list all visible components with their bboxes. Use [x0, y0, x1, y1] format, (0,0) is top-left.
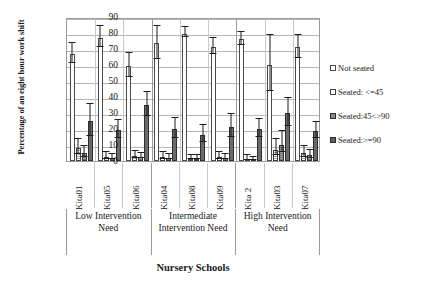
error-bar-cap — [125, 52, 132, 53]
error-bar-cap — [143, 115, 150, 116]
y-axis-tick-label: 70 — [96, 45, 118, 55]
x-axis-tick-label: Kita03 — [272, 166, 282, 210]
bar[interactable] — [200, 135, 205, 161]
error-bar — [269, 35, 270, 91]
error-bar-cap — [312, 121, 319, 122]
group-label: High Intervention Need — [235, 211, 320, 234]
error-bar-cap — [75, 138, 82, 139]
error-bar — [128, 53, 129, 77]
bar[interactable] — [144, 105, 149, 161]
legend-item[interactable]: Not seated — [330, 56, 440, 80]
bar[interactable] — [223, 158, 228, 161]
error-bar — [315, 122, 316, 138]
error-bar — [281, 131, 282, 152]
error-bar-cap — [250, 156, 257, 157]
y-axis-tick-label: 40 — [96, 93, 118, 103]
bar[interactable] — [313, 131, 318, 161]
error-bar-cap — [165, 158, 172, 159]
bar[interactable] — [154, 43, 159, 161]
error-bar-cap — [115, 119, 122, 120]
x-axis-title: Nursery Schools — [66, 262, 320, 273]
category-separator — [235, 163, 236, 208]
legend-swatch-icon — [330, 89, 336, 95]
bar[interactable] — [257, 129, 262, 161]
y-axis-tick-label: 60 — [96, 61, 118, 71]
error-bar-cap — [97, 25, 104, 26]
legend-swatch-icon — [330, 65, 336, 71]
y-axis-tick-label: 50 — [96, 77, 118, 87]
category-separator — [179, 163, 180, 208]
error-bar-cap — [228, 136, 235, 137]
group-separator — [235, 209, 236, 255]
bar[interactable] — [88, 121, 93, 161]
error-bar — [297, 35, 298, 57]
bar[interactable] — [166, 158, 171, 161]
bar[interactable] — [307, 155, 312, 161]
error-bar-cap — [181, 36, 188, 37]
legend-item[interactable]: Seated:45<>90 — [330, 104, 440, 128]
error-bar — [202, 125, 203, 143]
bar[interactable] — [285, 113, 290, 161]
legend-label: Seated:45<>90 — [338, 111, 390, 121]
bar-group — [180, 17, 208, 161]
error-bar-cap — [165, 153, 172, 154]
bar[interactable] — [194, 159, 199, 161]
error-bar-cap — [115, 137, 122, 138]
error-bar-cap — [306, 149, 313, 150]
category-separator — [207, 163, 208, 208]
legend-item[interactable]: Seated: <=45 — [330, 80, 440, 104]
legend-swatch-icon — [330, 137, 336, 143]
bar[interactable] — [126, 66, 131, 161]
error-bar-cap — [181, 26, 188, 27]
error-bar-cap — [228, 113, 235, 114]
bar[interactable] — [279, 145, 284, 161]
error-bar-cap — [284, 125, 291, 126]
error-bar-cap — [81, 156, 88, 157]
x-axis-tick-label: Kita01 — [74, 166, 84, 210]
error-bar-cap — [250, 159, 257, 160]
error-bar — [231, 114, 232, 136]
y-axis-tick-label: 80 — [96, 29, 118, 39]
error-bar-cap — [81, 145, 88, 146]
error-bar-cap — [210, 53, 217, 54]
bar[interactable] — [239, 39, 244, 161]
bar[interactable] — [82, 153, 87, 161]
bar[interactable] — [251, 159, 256, 161]
bar[interactable] — [138, 157, 143, 161]
bar[interactable] — [229, 127, 234, 161]
bar[interactable] — [182, 34, 187, 161]
bar-group — [67, 17, 95, 161]
x-axis-category-labels: Kita01Kita05Kita06Kita04Kita08Kita09Kita… — [66, 163, 320, 208]
error-bar-cap — [222, 153, 229, 154]
error-bar-cap — [87, 135, 94, 136]
bar[interactable] — [295, 47, 300, 161]
bar[interactable] — [76, 148, 81, 161]
bar-group — [265, 17, 293, 161]
x-axis-tick-label: Kita 2 — [243, 166, 253, 210]
error-bar-cap — [294, 57, 301, 58]
error-bar-cap — [238, 31, 245, 32]
error-bar-cap — [278, 130, 285, 131]
error-bar-cap — [171, 117, 178, 118]
legend-item[interactable]: Seated:>=90 — [330, 128, 440, 152]
category-separator — [151, 163, 152, 208]
error-bar-cap — [137, 157, 144, 158]
x-axis-tick-label: Kita04 — [159, 166, 169, 210]
error-bar — [174, 118, 175, 139]
bar[interactable] — [211, 47, 216, 161]
bar[interactable] — [172, 129, 177, 161]
x-axis-tick-label: Kita09 — [215, 166, 225, 210]
bar[interactable] — [70, 54, 75, 161]
error-bar-cap — [193, 158, 200, 159]
error-bar-cap — [300, 145, 307, 146]
group-separator — [151, 209, 152, 255]
error-bar-cap — [266, 34, 273, 35]
error-bar-cap — [69, 42, 76, 43]
bar-group — [123, 17, 151, 161]
bar[interactable] — [267, 65, 272, 161]
category-separator — [292, 163, 293, 208]
x-axis-tick-label: Kita08 — [187, 166, 197, 210]
error-bar-cap — [199, 141, 206, 142]
chart-legend: Not seatedSeated: <=45Seated:45<>90Seate… — [330, 56, 440, 152]
bar-group — [293, 17, 321, 161]
